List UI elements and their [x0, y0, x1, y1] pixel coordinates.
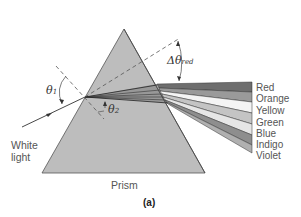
band-label-blue: Blue [256, 128, 276, 139]
band-label-violet: Violet [256, 150, 281, 161]
delta-theta-red-label: Δθred [167, 55, 194, 68]
prism-label: Prism [111, 180, 138, 191]
theta1-label: θ1 [46, 85, 57, 98]
band-label-red: Red [256, 82, 274, 93]
theta2-label: θ2 [108, 104, 119, 117]
white-light-label-line1: White [11, 140, 38, 151]
figure-caption: (a) [143, 197, 155, 208]
white-light-label-line2: light [11, 152, 30, 163]
band-label-yellow: Yellow [256, 105, 285, 116]
band-label-indigo: Indigo [256, 139, 283, 150]
band-label-orange: Orange [256, 93, 289, 104]
band-label-green: Green [256, 117, 284, 128]
ray-arrow-icon [46, 113, 52, 117]
